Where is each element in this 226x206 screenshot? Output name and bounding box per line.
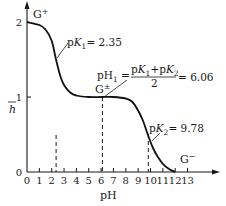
y-tick-label: 1	[16, 92, 22, 103]
ph1-annotation-value: = 6.06	[178, 71, 214, 83]
x-axis-label: pH	[100, 189, 117, 202]
x-ticks	[39, 168, 187, 172]
x-tick-labels: 012345678910111213	[24, 175, 194, 186]
pk2-leader	[152, 133, 160, 141]
ph1-annotation-numerator: pK1+pK2	[131, 63, 179, 78]
x-tick-label: 9	[135, 175, 141, 186]
x-tick-label: 12	[169, 175, 182, 186]
x-tick-label: 0	[24, 175, 30, 186]
g-minus-label: G−	[180, 152, 196, 166]
x-tick-label: 13	[181, 175, 194, 186]
x-tick-label: 5	[86, 175, 92, 186]
y-tick-label: 0	[16, 167, 22, 178]
axes	[25, 1, 221, 175]
g-plus-label: G+	[33, 7, 49, 21]
titration-chart: 012 012345678910111213 G+ pK1= 2.35 pH1 …	[0, 0, 226, 206]
x-tick-label: 2	[49, 175, 55, 186]
x-axis-arrow-icon	[212, 170, 220, 175]
ph1-annotation-denominator: 2	[151, 77, 158, 89]
x-tick-label: 8	[123, 175, 129, 186]
y-tick-label: 2	[16, 17, 22, 28]
x-tick-label: 4	[73, 175, 79, 186]
y-axis-label: h	[9, 103, 16, 116]
pk2-annotation: pK2= 9.78	[149, 122, 204, 137]
pk1-annotation: pK1= 2.35	[67, 36, 122, 51]
x-tick-label: 6	[98, 175, 104, 186]
y-axis-arrow-icon	[25, 1, 30, 9]
x-tick-label: 1	[36, 175, 42, 186]
x-tick-label: 3	[61, 175, 67, 186]
dashed-drop-lines	[56, 97, 148, 172]
x-tick-label: 10	[144, 175, 157, 186]
x-tick-label: 11	[156, 175, 169, 186]
y-tick-labels: 012	[16, 17, 22, 178]
x-tick-label: 7	[110, 175, 116, 186]
